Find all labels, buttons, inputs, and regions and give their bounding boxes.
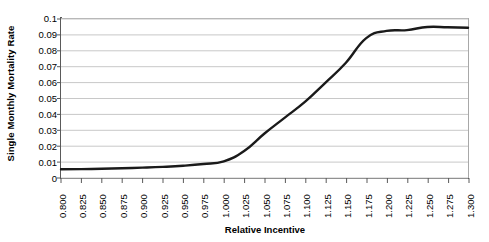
x-tick-label-text: 1.150 [342, 194, 353, 218]
x-tick-label-text: 0.800 [57, 194, 68, 218]
x-tick-label-text: 0.850 [97, 194, 108, 218]
x-axis-title: Relative Incentive [61, 224, 469, 235]
y-tick-label: 0.04 [39, 109, 58, 120]
x-tick-label-text: 0.950 [179, 194, 190, 218]
y-axis-title-label: Single Monthly Mortality Rate [6, 25, 17, 161]
y-axis-tick-labels: 00.010.020.030.040.050.060.070.080.090.1 [22, 18, 60, 178]
y-tick-label: 0.03 [39, 125, 58, 136]
x-tick-label-text: 1.100 [301, 194, 312, 218]
x-tick-label-text: 0.875 [118, 194, 129, 218]
x-tick-label-text: 1.075 [281, 194, 292, 218]
y-tick-label: 0.1 [44, 13, 57, 24]
x-tick-label-text: 1.225 [403, 194, 414, 218]
x-tick-label-text: 1.175 [363, 194, 374, 218]
data-line [61, 27, 468, 170]
y-tick-label: 0 [52, 173, 57, 184]
y-tick-label: 0.06 [39, 77, 58, 88]
y-tick-label: 0.07 [39, 61, 58, 72]
series-line [61, 19, 468, 178]
x-tick-label-text: 1.200 [383, 194, 394, 218]
y-tick-label: 0.08 [39, 45, 58, 56]
y-tick-label: 0.05 [39, 93, 58, 104]
x-tick-label-text: 0.975 [199, 194, 210, 218]
x-tick-label-text: 1.025 [240, 194, 251, 218]
mortality-rate-chart: Single Monthly Mortality Rate 00.010.020… [0, 0, 489, 242]
x-tick-label-text: 1.000 [220, 194, 231, 218]
x-tick-label-text: 1.300 [465, 194, 476, 218]
plot-area [61, 18, 469, 178]
x-tick-label-text: 1.050 [261, 194, 272, 218]
x-tick-label-text: 1.250 [424, 194, 435, 218]
x-tick-label-text: 1.275 [444, 194, 455, 218]
x-tick-label-text: 1.125 [322, 194, 333, 218]
y-tick-label: 0.02 [39, 141, 58, 152]
x-tick-label-text: 0.925 [159, 194, 170, 218]
y-axis-title: Single Monthly Mortality Rate [0, 0, 22, 186]
y-tick-label: 0.01 [39, 157, 58, 168]
y-tick-label: 0.09 [39, 29, 58, 40]
x-tick-label-text: 0.900 [138, 194, 149, 218]
x-axis-tick-labels: 0.8000.8250.8500.8750.9000.9250.9500.975… [61, 184, 469, 222]
x-tick-label-text: 0.825 [77, 194, 88, 218]
